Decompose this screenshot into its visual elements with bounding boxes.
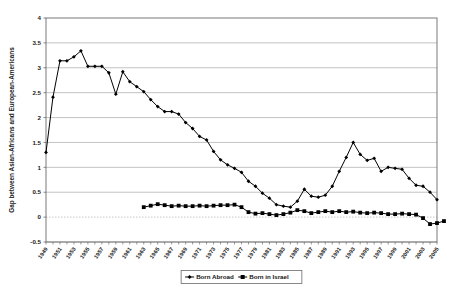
data-point-marker xyxy=(414,213,418,217)
data-point-marker xyxy=(219,203,223,207)
data-point-marker xyxy=(142,205,146,209)
x-axis-tick-labels: 1949195119531955195719591961196319651967… xyxy=(37,246,440,260)
x-tick-label: 1989 xyxy=(316,246,328,260)
data-point-marker xyxy=(435,221,439,225)
x-tick-label: 1951 xyxy=(51,246,63,260)
data-point-marker xyxy=(226,203,230,207)
x-tick-label: 1957 xyxy=(93,246,105,260)
data-point-marker xyxy=(254,212,258,216)
data-point-marker xyxy=(233,203,237,207)
chart-container: -0.500.511.522.533.54Gap between Asian-A… xyxy=(0,0,457,297)
data-point-marker xyxy=(365,211,369,215)
y-tick-label: 0 xyxy=(38,213,42,220)
data-point-marker xyxy=(281,212,285,216)
data-point-marker xyxy=(400,212,404,216)
x-tick-label: 1963 xyxy=(135,246,147,260)
data-point-marker xyxy=(184,204,188,208)
data-point-marker xyxy=(393,212,397,216)
data-point-marker xyxy=(205,204,209,208)
y-tick-label: 3 xyxy=(38,64,42,71)
y-axis-title: Gap between Asian-Africans and European-… xyxy=(8,47,16,213)
y-tick-label: 0.5 xyxy=(32,188,41,195)
data-point-marker xyxy=(302,209,306,213)
data-point-marker xyxy=(240,205,244,209)
data-point-marker xyxy=(170,204,174,208)
data-point-marker xyxy=(379,211,383,215)
data-point-marker xyxy=(386,212,390,216)
x-tick-label: 1955 xyxy=(79,246,91,260)
x-tick-label: 1977 xyxy=(232,246,244,260)
y-tick-label: 4 xyxy=(38,14,42,21)
data-point-marker xyxy=(268,212,272,216)
x-tick-label: 1993 xyxy=(344,246,356,260)
x-tick-label: 1961 xyxy=(121,246,133,260)
x-tick-label: 1973 xyxy=(204,246,216,260)
x-tick-label: 1999 xyxy=(386,246,398,260)
x-tick-label: 1979 xyxy=(246,246,258,260)
data-point-marker xyxy=(337,209,341,213)
data-point-marker xyxy=(288,211,292,215)
x-tick-label: 1983 xyxy=(274,246,286,260)
data-point-marker xyxy=(261,211,265,215)
legend: Born AbroadBorn in Israel xyxy=(181,271,302,284)
data-point-marker xyxy=(295,208,299,212)
y-axis-ticks: -0.500.511.522.533.54 xyxy=(30,14,46,245)
x-tick-label: 2001 xyxy=(400,246,412,260)
data-point-marker xyxy=(309,211,313,215)
x-tick-label: 1971 xyxy=(190,246,202,260)
data-point-marker xyxy=(344,210,348,214)
data-point-marker xyxy=(163,203,167,207)
data-point-marker xyxy=(241,275,245,279)
y-tick-label: -0.5 xyxy=(30,238,41,245)
data-point-marker xyxy=(275,213,279,217)
y-tick-label: 2.5 xyxy=(32,89,41,96)
x-tick-label: 1965 xyxy=(148,246,160,260)
data-point-marker xyxy=(198,204,202,208)
data-point-marker xyxy=(351,210,355,214)
x-tick-label: 1959 xyxy=(107,246,119,260)
x-tick-label: 1969 xyxy=(176,246,188,260)
y-tick-label: 1.5 xyxy=(32,139,41,146)
x-tick-label: 2003 xyxy=(414,246,426,260)
x-tick-label: 1995 xyxy=(358,246,370,260)
data-point-marker xyxy=(247,210,251,214)
x-tick-label: 1997 xyxy=(372,246,384,260)
x-tick-label: 1975 xyxy=(218,246,230,260)
data-point-marker xyxy=(177,204,181,208)
data-point-marker xyxy=(372,211,376,215)
data-point-marker xyxy=(149,204,153,208)
x-tick-label: 1987 xyxy=(302,246,314,260)
data-point-marker xyxy=(156,202,160,206)
data-point-marker xyxy=(421,216,425,220)
data-point-marker xyxy=(191,204,195,208)
x-tick-label: 1967 xyxy=(162,246,174,260)
data-point-marker xyxy=(316,210,320,214)
x-tick-label: 2005 xyxy=(428,246,440,260)
data-point-marker xyxy=(442,219,446,223)
data-point-marker xyxy=(323,209,327,213)
y-tick-label: 3.5 xyxy=(32,39,41,46)
x-tick-label: 1953 xyxy=(65,246,77,260)
data-point-marker xyxy=(358,211,362,215)
data-point-marker xyxy=(428,222,432,226)
y-tick-label: 2 xyxy=(38,114,42,121)
x-tick-label: 1985 xyxy=(288,246,300,260)
data-point-marker xyxy=(330,210,334,214)
data-point-marker xyxy=(212,204,216,208)
legend-label: Born in Israel xyxy=(249,273,289,280)
chart-figure: -0.500.511.522.533.54Gap between Asian-A… xyxy=(0,0,457,297)
legend-label: Born Abroad xyxy=(196,273,234,280)
x-tick-label: 1981 xyxy=(260,246,272,260)
data-point-marker xyxy=(407,212,411,216)
x-tick-label: 1949 xyxy=(37,246,49,260)
x-tick-label: 1991 xyxy=(330,246,342,260)
y-tick-label: 1 xyxy=(38,164,42,171)
